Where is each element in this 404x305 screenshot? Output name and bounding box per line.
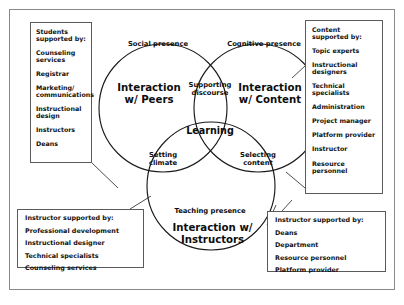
box-instructor-left-item: Counseling services (25, 265, 139, 272)
box-students-item: Instructional design (36, 105, 87, 119)
box-instructor-supported-by-left: Instructor supported by: Professional de… (17, 209, 144, 268)
label-setting-climate: Setting climate (140, 152, 186, 167)
box-students-item: Deans (36, 140, 87, 147)
box-instructor-left-item: Instructional designer (25, 240, 139, 247)
connector-students-to-peers (92, 163, 118, 188)
box-students-supported-by: Students supported by: Counseling servic… (30, 22, 92, 163)
label-social-presence: Social presence (120, 41, 196, 49)
connector-content-to-content-circle (286, 172, 305, 188)
box-instructor-supported-by-right: Instructor supported by: Deans Departmen… (267, 211, 386, 272)
box-students-item: Instructors (36, 126, 87, 133)
box-students-item: Registrar (36, 70, 87, 77)
box-content-item: Platform provider (312, 131, 378, 138)
box-instructor-right-item: Platform provider (275, 267, 381, 274)
box-content-item: Resource personnel (312, 160, 378, 174)
box-instructor-right-item: Deans (275, 230, 381, 237)
label-interaction-peers: Interaction w/ Peers (110, 82, 188, 105)
box-instructor-left-title: Instructor supported by: (25, 215, 139, 222)
box-students-title: Students supported by: (36, 28, 87, 42)
label-learning: Learning (180, 126, 240, 137)
box-content-item: Technical specialists (312, 82, 378, 96)
label-interaction-content: Interaction w/ Content (230, 82, 310, 105)
box-content-item: Instructor (312, 145, 378, 152)
label-teaching-presence: Teaching presence (160, 208, 260, 216)
label-interaction-instructors: Interaction w/ Instructors (150, 222, 275, 245)
box-instructor-left-item: Professional development (25, 228, 139, 235)
box-content-item: Administration (312, 103, 378, 110)
box-students-item: Counseling services (36, 49, 87, 63)
box-instructor-right-title: Instructor supported by: (275, 217, 381, 224)
box-content-item: Instructional designers (312, 61, 378, 75)
box-content-title: Content supported by: (312, 26, 378, 40)
box-students-item: Marketing/ communications (36, 84, 87, 98)
diagram-canvas: Interaction w/ Peers Interaction w/ Cont… (0, 0, 404, 305)
label-cognitive-presence: Cognitive presence (222, 41, 306, 49)
box-instructor-right-item: Resource personnel (275, 255, 381, 262)
box-instructor-right-item: Department (275, 242, 381, 249)
box-content-item: Project manager (312, 117, 378, 124)
box-content-item: Topic experts (312, 47, 378, 54)
label-selecting-content: Selecting content (234, 152, 282, 167)
box-content-supported-by: Content supported by: Topic experts Inst… (305, 20, 383, 194)
connector-content-to-content-circle-top (292, 66, 305, 78)
label-supporting-discourse: Supporting discourse (182, 82, 238, 97)
box-instructor-left-item: Technical specialists (25, 253, 139, 260)
connector-instructor-right-to-circle-top (282, 200, 292, 211)
